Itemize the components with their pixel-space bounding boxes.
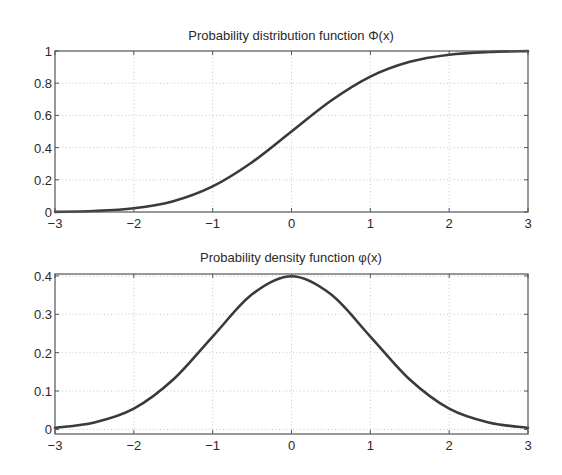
cdf-y-tick-label: 0.6 <box>34 108 52 123</box>
pdf-x-tick-label: −2 <box>126 438 141 453</box>
pdf-grid <box>55 274 528 434</box>
cdf-y-tick-label: 0.4 <box>34 141 52 156</box>
cdf-x-tick-label: 1 <box>367 216 374 231</box>
pdf-y-tick-label: 0.3 <box>34 307 52 322</box>
pdf-x-tick-label: 1 <box>367 438 374 453</box>
pdf-chart-title: Probability density function φ(x) <box>200 250 382 265</box>
cdf-y-tick-label: 1 <box>45 44 52 59</box>
cdf-chart-title: Probability distribution function Φ(x) <box>188 28 393 43</box>
cdf-y-tick-label: 0 <box>45 205 52 220</box>
pdf-x-tick-label: −1 <box>205 438 220 453</box>
pdf-x-tick-label: 3 <box>524 438 531 453</box>
pdf-y-tick-label: 0 <box>45 422 52 437</box>
figure: Probability distribution function Φ(x) −… <box>0 0 562 475</box>
pdf-ticks <box>55 274 528 434</box>
cdf-x-tick-label: 3 <box>524 216 531 231</box>
pdf-y-axis-labels: 00.10.20.30.4 <box>34 269 52 437</box>
pdf-x-axis-labels: −3−2−10123 <box>48 438 532 453</box>
pdf-y-tick-label: 0.4 <box>34 269 52 284</box>
pdf-y-tick-label: 0.1 <box>34 384 52 399</box>
pdf-chart: Probability density function φ(x) −3−2−1… <box>34 250 532 453</box>
cdf-x-tick-label: 0 <box>288 216 295 231</box>
cdf-y-axis-labels: 00.20.40.60.81 <box>34 44 52 220</box>
pdf-x-tick-label: 2 <box>446 438 453 453</box>
cdf-y-tick-label: 0.2 <box>34 173 52 188</box>
cdf-x-tick-label: −1 <box>205 216 220 231</box>
cdf-chart: Probability distribution function Φ(x) −… <box>34 28 532 231</box>
cdf-x-tick-label: 2 <box>446 216 453 231</box>
cdf-x-axis-labels: −3−2−10123 <box>48 216 532 231</box>
pdf-y-tick-label: 0.2 <box>34 346 52 361</box>
pdf-x-tick-label: 0 <box>288 438 295 453</box>
pdf-axes-frame <box>55 274 528 434</box>
cdf-y-tick-label: 0.8 <box>34 76 52 91</box>
cdf-x-tick-label: −2 <box>126 216 141 231</box>
pdf-x-tick-label: −3 <box>48 438 63 453</box>
